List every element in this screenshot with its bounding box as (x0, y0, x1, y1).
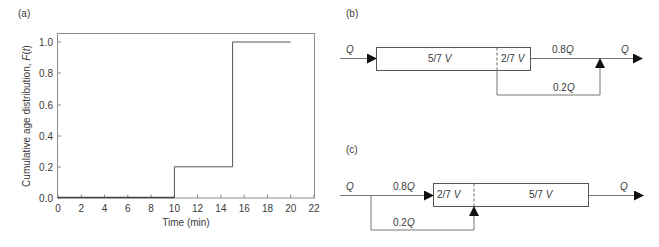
svg-text:1.0: 1.0 (39, 37, 53, 48)
svg-text:16: 16 (239, 203, 251, 214)
figure-canvas: (a) 0.0 0.2 0.4 0.6 0.8 1.0 (0, 0, 659, 247)
svg-text:20: 20 (285, 203, 297, 214)
svg-text:0.6: 0.6 (39, 100, 53, 111)
b-bypass-flow-label: 0.2Q (553, 82, 575, 93)
b-inlet-flow-label: Q (346, 44, 354, 55)
b-segment-1-volume: 5/7 V (428, 53, 453, 64)
panel-c-diagram: (c) Q 0.8Q 2/7 V 5/7 V Q 0.2Q (340, 144, 643, 230)
svg-text:10: 10 (169, 203, 181, 214)
svg-text:0.8: 0.8 (39, 68, 53, 79)
x-tick-labels: 0 2 4 6 8 10 12 14 16 18 20 22 (55, 203, 320, 214)
svg-text:14: 14 (215, 203, 227, 214)
b-outlet-flow-label: Q (621, 44, 629, 55)
b-main-flow-label: 0.8Q (552, 44, 574, 55)
panel-a-label: (a) (18, 8, 30, 19)
c-segment-2-volume: 5/7 V (529, 189, 554, 200)
svg-text:0.4: 0.4 (39, 131, 53, 142)
svg-text:0.0: 0.0 (39, 193, 53, 204)
c-outlet-flow-label: Q (620, 181, 628, 192)
svg-text:8: 8 (148, 203, 154, 214)
panel-c-label: (c) (346, 144, 358, 155)
c-main-flow-label: 0.8Q (393, 181, 415, 192)
svg-text:0: 0 (55, 203, 61, 214)
svg-text:2: 2 (79, 203, 85, 214)
panel-b-label: (b) (346, 8, 358, 19)
svg-text:0.2: 0.2 (39, 162, 53, 173)
x-axis-label: Time (min) (162, 217, 209, 228)
svg-text:12: 12 (192, 203, 204, 214)
svg-text:18: 18 (262, 203, 274, 214)
svg-text:6: 6 (125, 203, 131, 214)
y-tick-labels: 0.0 0.2 0.4 0.6 0.8 1.0 (39, 37, 53, 204)
plot-frame (58, 34, 315, 199)
panel-b-diagram: (b) Q 5/7 V 2/7 V 0.8Q Q 0.2Q (340, 8, 642, 95)
svg-text:4: 4 (102, 203, 108, 214)
svg-text:22: 22 (308, 203, 320, 214)
y-axis (58, 42, 62, 198)
c-segment-1-volume: 2/7 V (437, 189, 462, 200)
c-inlet-flow-label: Q (346, 181, 354, 192)
panel-a-chart: (a) 0.0 0.2 0.4 0.6 0.8 1.0 (18, 8, 320, 228)
y-axis-label: Cumulative age distribution, F(t) (21, 45, 32, 187)
b-segment-2-volume: 2/7 V (501, 53, 526, 64)
cumulative-distribution-line (58, 42, 291, 198)
c-bypass-flow-label: 0.2Q (393, 217, 415, 228)
